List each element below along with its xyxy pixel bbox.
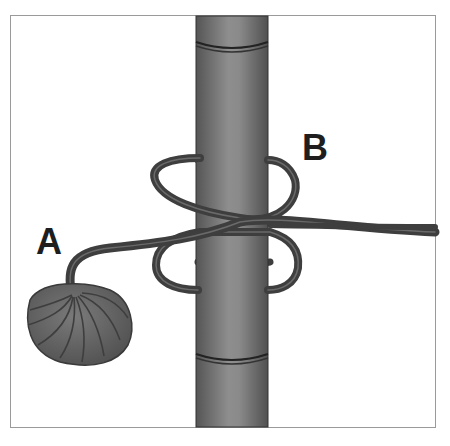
rope-coil [28,284,132,365]
knot-illustration: A B [0,0,450,446]
label-b: B [302,127,328,168]
label-a: A [36,221,62,262]
